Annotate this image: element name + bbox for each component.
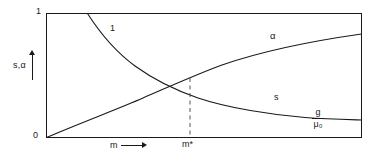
asymptote-denominator: μ₀ — [313, 119, 324, 129]
asymptote-label-fraction: g μ₀ — [312, 108, 324, 129]
plot-canvas — [0, 0, 378, 154]
y-axis-tick-top: 1 — [36, 7, 41, 16]
origin-label: 0 — [33, 131, 38, 140]
x-axis-tick-mstar: m* — [182, 140, 193, 149]
x-axis-title: m — [110, 140, 118, 150]
x-axis-title-group: m — [110, 140, 147, 150]
curve-label-alpha: α — [270, 31, 276, 41]
up-arrow-icon — [29, 50, 36, 80]
curve-label-one: 1 — [110, 24, 115, 33]
figure-container: 1 0 s,α m m* 1 α s g μ₀ — [0, 0, 378, 154]
y-axis-title-group: s,α — [13, 50, 36, 80]
asymptote-numerator: g — [314, 108, 321, 118]
right-arrow-icon — [121, 142, 147, 149]
curve-label-s: s — [274, 93, 279, 102]
y-axis-title: s,α — [13, 60, 26, 70]
